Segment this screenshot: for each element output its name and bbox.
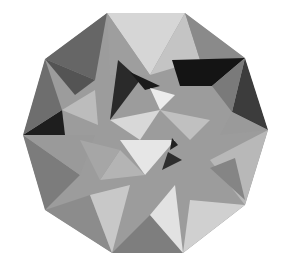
- faceted-decagon-figure: [0, 0, 290, 273]
- decagon-svg: [0, 0, 290, 273]
